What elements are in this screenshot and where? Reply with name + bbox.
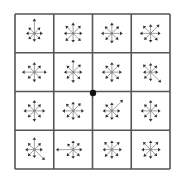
arrowhead-icon — [22, 70, 25, 74]
arrowhead-icon — [118, 109, 121, 113]
arrowhead-icon — [80, 32, 83, 36]
arrowhead-icon — [149, 156, 153, 159]
arrowhead-icon — [119, 70, 122, 74]
descriptor-grid-figure — [0, 0, 183, 183]
arrowhead-icon — [101, 32, 104, 36]
arrowhead-icon — [80, 70, 83, 74]
arrowhead-icon — [40, 148, 43, 152]
arrowhead-icon — [149, 24, 153, 27]
arrowhead-icon — [33, 100, 37, 103]
arrowhead-icon — [64, 32, 67, 36]
arrowhead-icon — [110, 140, 114, 143]
histogram-cells — [22, 19, 161, 161]
arrowhead-icon — [62, 109, 65, 113]
arrowhead-icon — [141, 109, 144, 113]
histogram-cell-r1-c2 — [102, 62, 122, 82]
orientation-arrow-shaft — [151, 143, 158, 150]
histogram-cell-r3-c2 — [103, 140, 122, 158]
arrowhead-icon — [44, 70, 47, 74]
arrowhead-icon — [24, 109, 27, 113]
histogram-cell-r2-c0 — [24, 100, 46, 122]
arrowhead-icon — [25, 148, 28, 152]
histogram-cell-r1-c1 — [64, 60, 82, 83]
histogram-cell-r3-c3 — [141, 140, 160, 158]
arrowhead-icon — [103, 109, 106, 113]
histogram-cell-r2-c1 — [62, 102, 84, 120]
arrowhead-icon — [33, 119, 37, 122]
arrowhead-icon — [71, 140, 75, 143]
orientation-arrow-shaft — [73, 104, 80, 111]
arrowhead-icon — [110, 117, 114, 120]
arrowhead-icon — [140, 32, 143, 36]
orientation-arrow-shaft — [66, 27, 73, 34]
arrowhead-icon — [158, 32, 161, 36]
histogram-cell-r2-c3 — [141, 100, 161, 122]
arrowhead-icon — [43, 109, 46, 113]
arrowhead-icon — [71, 102, 75, 105]
orientation-arrow-shaft — [105, 143, 112, 150]
arrowhead-icon — [33, 155, 37, 158]
arrowhead-icon — [158, 109, 161, 113]
arrowhead-icon — [71, 60, 75, 63]
arrowhead-icon — [120, 32, 123, 36]
arrowhead-icon — [81, 109, 84, 113]
arrowhead-icon — [149, 100, 153, 103]
keypoint-center-dot — [90, 90, 96, 96]
histogram-cell-r0-c2 — [101, 23, 123, 44]
orientation-arrow-shaft — [66, 33, 73, 40]
arrowhead-icon — [110, 41, 114, 44]
arrowhead-icon — [110, 62, 114, 65]
histogram-cell-r0-c3 — [140, 24, 161, 42]
orientation-arrow-shaft — [112, 101, 122, 111]
arrowhead-icon — [33, 79, 37, 82]
arrowhead-icon — [149, 140, 153, 143]
arrowhead-icon — [56, 148, 59, 152]
arrowhead-icon — [119, 148, 122, 152]
orientation-arrow-shaft — [73, 33, 80, 40]
arrowhead-icon — [26, 32, 29, 36]
arrowhead-icon — [149, 79, 153, 82]
arrowhead-icon — [80, 148, 83, 152]
arrowhead-icon — [149, 63, 153, 66]
arrowhead-icon — [71, 80, 75, 83]
arrowhead-icon — [102, 70, 105, 74]
arrowhead-icon — [103, 148, 106, 152]
arrowhead-icon — [110, 23, 114, 26]
histogram-cell-r1-c0 — [22, 62, 47, 82]
arrowhead-icon — [156, 70, 159, 74]
histogram-cell-r3-c1 — [56, 140, 82, 158]
arrowhead-icon — [143, 70, 146, 74]
histogram-cell-r3-c0 — [25, 137, 45, 160]
arrowhead-icon — [110, 102, 114, 105]
orientation-arrow-shaft — [34, 150, 44, 160]
orientation-arrow-shaft — [144, 27, 151, 34]
arrowhead-icon — [71, 40, 75, 43]
arrowhead-icon — [149, 40, 153, 43]
arrowhead-icon — [33, 62, 37, 65]
arrowhead-icon — [149, 119, 153, 122]
histogram-cell-r0-c0 — [26, 19, 43, 42]
arrowhead-icon — [71, 156, 75, 159]
arrowhead-icon — [110, 79, 114, 82]
arrowhead-icon — [33, 39, 37, 42]
arrowhead-icon — [40, 32, 43, 36]
histogram-cell-r1-c3 — [143, 63, 161, 83]
arrowhead-icon — [71, 117, 75, 120]
orientation-arrow-shaft — [73, 65, 80, 72]
orientation-arrow-shaft — [144, 143, 151, 150]
orientation-arrow-shaft — [73, 27, 80, 34]
arrowhead-icon — [33, 137, 37, 140]
arrowhead-icon — [33, 19, 37, 22]
histogram-cell-r2-c2 — [103, 100, 123, 120]
arrowhead-icon — [71, 23, 75, 26]
arrowhead-icon — [110, 156, 114, 159]
orientation-arrow-shaft — [151, 72, 161, 82]
orientation-arrow-shaft — [112, 65, 119, 72]
arrowhead-icon — [64, 70, 67, 74]
histogram-cell-r0-c1 — [64, 23, 82, 43]
arrowhead-icon — [141, 148, 144, 152]
arrowhead-icon — [158, 148, 161, 152]
orientation-arrow-shaft — [112, 143, 119, 150]
